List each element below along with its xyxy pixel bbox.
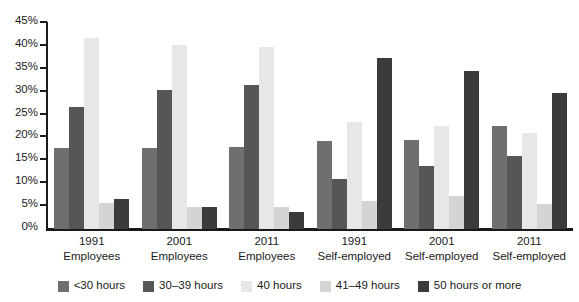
bar-group [398, 18, 486, 229]
bar-group [48, 18, 136, 229]
bar [99, 203, 114, 229]
legend-item[interactable]: 30–39 hours [143, 280, 223, 292]
bar [507, 156, 522, 229]
y-tick-label: 35% [0, 61, 38, 73]
y-tick-mark [40, 158, 47, 160]
x-group-label: 2011Self-employed [486, 234, 574, 264]
x-group-label: 1991Self-employed [311, 234, 399, 264]
bar [522, 133, 537, 229]
y-tick-mark [40, 181, 47, 183]
bar [187, 207, 202, 229]
y-tick-label: 45% [0, 15, 38, 27]
legend-item[interactable]: <30 hours [58, 280, 125, 292]
legend-label: <30 hours [74, 280, 125, 292]
chart-legend: <30 hours30–39 hours40 hours41–49 hours5… [0, 276, 579, 296]
y-tick-label: 15% [0, 152, 38, 164]
x-label-status: Employees [223, 249, 311, 264]
bar [492, 126, 507, 229]
bar [347, 122, 362, 229]
y-tick-label: 20% [0, 129, 38, 141]
y-tick-mark [40, 204, 47, 206]
legend-label: 30–39 hours [159, 280, 223, 292]
x-group-label: 1991Employees [48, 234, 136, 264]
y-tick-mark [40, 21, 47, 23]
bar [157, 90, 172, 229]
y-tick-label: 10% [0, 175, 38, 187]
bar [434, 126, 449, 229]
y-tick-mark [40, 44, 47, 46]
y-tick-label: 30% [0, 84, 38, 96]
bar [54, 148, 69, 229]
legend-swatch-icon [241, 281, 252, 292]
bar-chart: 0%5%10%15%20%25%30%35%40%45% 1991Employe… [0, 0, 579, 302]
x-axis-labels: 1991Employees2001Employees2011Employees1… [48, 234, 573, 268]
bar-group [223, 18, 311, 229]
x-label-status: Employees [136, 249, 224, 264]
y-tick-mark [40, 113, 47, 115]
legend-item[interactable]: 40 hours [241, 280, 302, 292]
bar [202, 207, 217, 229]
bar [332, 179, 347, 229]
bar [142, 148, 157, 229]
bar [172, 45, 187, 229]
bar [464, 71, 479, 229]
x-label-status: Self-employed [398, 249, 486, 264]
bar-group [311, 18, 399, 229]
bar [229, 147, 244, 229]
bar [259, 47, 274, 229]
x-label-year: 2001 [398, 234, 486, 249]
y-tick-mark [40, 90, 47, 92]
x-group-label: 2001Self-employed [398, 234, 486, 264]
x-label-status: Self-employed [311, 249, 399, 264]
x-label-year: 1991 [48, 234, 136, 249]
legend-label: 50 hours or more [434, 280, 522, 292]
x-group-label: 2001Employees [136, 234, 224, 264]
bar [317, 141, 332, 229]
bar-group [136, 18, 224, 229]
y-tick-label: 40% [0, 38, 38, 50]
y-axis-labels: 0%5%10%15%20%25%30%35%40%45% [0, 0, 38, 302]
legend-swatch-icon [320, 281, 331, 292]
x-label-year: 2011 [486, 234, 574, 249]
legend-label: 41–49 hours [336, 280, 400, 292]
x-label-status: Self-employed [486, 249, 574, 264]
legend-item[interactable]: 50 hours or more [418, 280, 522, 292]
x-label-year: 1991 [311, 234, 399, 249]
legend-swatch-icon [143, 281, 154, 292]
bar [419, 166, 434, 229]
bar [377, 58, 392, 229]
bar [114, 199, 129, 229]
y-tick-mark [40, 67, 47, 69]
bar [537, 204, 552, 229]
bar [289, 212, 304, 229]
x-label-status: Employees [48, 249, 136, 264]
x-group-label: 2011Employees [223, 234, 311, 264]
y-tick-label: 25% [0, 107, 38, 119]
legend-swatch-icon [418, 281, 429, 292]
bar [244, 85, 259, 229]
x-label-year: 2001 [136, 234, 224, 249]
bar [449, 196, 464, 229]
legend-swatch-icon [58, 281, 69, 292]
bar-groups [48, 18, 573, 229]
bar [404, 140, 419, 229]
y-tick-mark [40, 135, 47, 137]
y-tick-label: 0% [0, 221, 38, 233]
bar-group [486, 18, 574, 229]
legend-item[interactable]: 41–49 hours [320, 280, 400, 292]
bar [552, 93, 567, 229]
bar [69, 107, 84, 229]
bar [274, 207, 289, 229]
x-label-year: 2011 [223, 234, 311, 249]
bar [362, 201, 377, 229]
bar [84, 38, 99, 229]
y-tick-label: 5% [0, 198, 38, 210]
legend-label: 40 hours [257, 280, 302, 292]
